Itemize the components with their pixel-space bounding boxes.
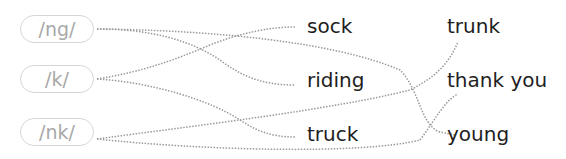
word-young[interactable]: young (447, 122, 509, 146)
line-nk-trunk (97, 42, 458, 139)
word-truck[interactable]: truck (307, 122, 358, 146)
line-k-truck (97, 79, 295, 137)
word-trunk[interactable]: trunk (447, 14, 500, 38)
word-riding[interactable]: riding (307, 68, 364, 92)
sound-label: /k/ (45, 68, 69, 90)
line-nk-thankyou (97, 94, 458, 149)
sound-label: /ng/ (39, 18, 76, 40)
word-sock[interactable]: sock (307, 14, 352, 38)
sound-pill-ng[interactable]: /ng/ (20, 15, 94, 43)
sound-pill-k[interactable]: /k/ (20, 65, 94, 93)
word-thank-you[interactable]: thank you (447, 68, 547, 92)
line-ng-young (97, 29, 455, 135)
sound-pill-nk[interactable]: /nk/ (20, 118, 94, 146)
line-ng-riding (97, 29, 295, 85)
sound-label: /nk/ (39, 121, 75, 143)
line-k-sock (97, 27, 295, 79)
